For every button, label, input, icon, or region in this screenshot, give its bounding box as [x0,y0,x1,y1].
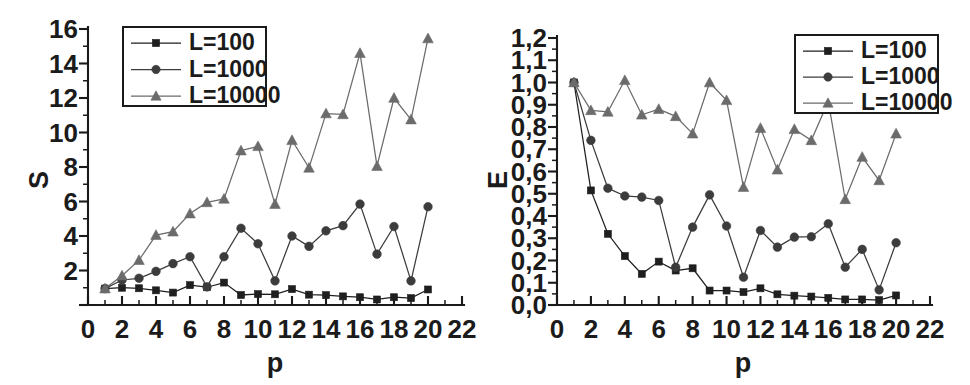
data-point-marker [806,135,817,145]
chart-panel-e: 02468101214161820220,00,10,20,30,40,50,6… [485,0,970,385]
data-point-marker [374,296,381,303]
data-point-marker [306,291,313,298]
data-point-marker [790,233,799,242]
data-point-marker [255,291,262,298]
data-point-marker [408,295,415,302]
data-point-marker [220,252,229,261]
data-point-marker [688,223,697,232]
data-point-marker [670,111,681,121]
data-point-marker [654,196,663,205]
x-tick-label: 12 [278,314,307,344]
data-point-marker [185,208,196,218]
data-point-marker [323,292,330,299]
data-point-marker [219,194,230,204]
data-point-marker [655,258,662,265]
x-tick-label: 2 [115,314,129,344]
data-point-marker [706,287,713,294]
data-point-marker [807,232,816,241]
data-point-marker [288,232,297,241]
data-point-marker [170,289,177,296]
y-tick-label: 12 [49,83,78,113]
data-point-marker [391,294,398,301]
legend-label: L=100 [861,37,927,63]
x-tick-label: 14 [780,314,809,344]
y-tick-label: 10 [49,118,78,148]
data-point-marker [791,292,798,299]
x-tick-label: 2 [584,314,598,344]
data-point-marker [774,291,781,298]
data-point-marker [876,297,883,304]
data-point-marker [152,65,160,73]
x-ticks: 0246810121416182022 [550,296,945,344]
x-tick-label: 0 [81,314,95,344]
data-point-marker [270,199,281,209]
data-point-marker [723,287,730,294]
data-point-marker [357,294,364,301]
x-tick-label: 16 [346,314,375,344]
x-axis-title: p [735,348,752,378]
data-point-marker [289,286,296,293]
data-point-marker [321,108,332,118]
data-point-marker [638,270,645,277]
data-point-marker [389,93,400,103]
y-axis-title: S [24,171,54,189]
data-point-marker [705,191,714,200]
data-point-marker [671,263,680,272]
legend: L=100L=1000L=10000 [123,27,280,108]
x-tick-label: 22 [448,314,477,344]
data-point-marker [134,255,145,265]
data-point-marker [373,250,382,259]
data-point-marker [874,175,885,185]
x-tick-label: 18 [848,314,877,344]
data-point-marker [756,226,765,235]
data-point-marker [875,286,884,295]
data-point-marker [287,135,298,145]
x-tick-label: 18 [380,314,409,344]
x-tick-label: 20 [414,314,443,344]
data-point-marker [253,141,264,151]
legend-label: L=100 [189,29,255,55]
x-tick-label: 22 [916,314,945,344]
x-tick-label: 10 [244,314,273,344]
y-tick-label: 16 [49,14,78,44]
data-point-marker [842,296,849,303]
x-tick-label: 6 [651,314,665,344]
chart-svg-e: 02468101214161820220,00,10,20,30,40,50,6… [485,0,970,385]
data-point-marker [841,263,850,272]
data-point-marker [272,291,279,298]
data-point-marker [119,284,126,291]
chart-panel-s: 0246810121416182022246810121416SpL=100L=… [0,0,485,385]
x-tick-label: 6 [183,314,197,344]
data-point-marker [636,109,647,119]
data-point-marker [722,222,731,231]
data-point-marker [372,161,383,171]
data-point-marker [187,282,194,289]
data-point-marker [620,75,631,85]
data-point-marker [740,289,747,296]
x-tick-label: 10 [712,314,741,344]
legend: L=100L=1000L=10000 [795,35,952,115]
data-point-marker [152,267,161,276]
data-point-marker [859,296,866,303]
data-point-marker [604,230,611,237]
x-tick-label: 12 [746,314,775,344]
data-point-marker [237,224,246,233]
legend-label: L=10000 [861,89,952,115]
data-point-marker [755,123,766,133]
series-l1000 [101,200,433,293]
x-tick-label: 4 [149,314,164,344]
data-point-marker [136,285,143,292]
series-l100 [102,279,432,303]
data-point-marker [704,77,715,87]
data-point-marker [824,73,832,81]
data-point-marker [757,285,764,292]
data-point-marker [186,252,195,261]
data-point-marker [152,39,159,46]
data-point-marker [825,294,832,301]
data-point-marker [586,105,597,115]
x-tick-label: 20 [882,314,911,344]
series-line [105,204,428,289]
y-ticks: 246810121416 [49,14,88,305]
y-tick-label: 1,2 [511,23,547,53]
data-point-marker [238,291,245,298]
